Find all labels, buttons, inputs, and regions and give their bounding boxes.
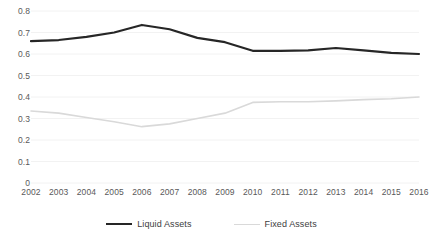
- plot-svg: [31, 11, 419, 183]
- y-tick-label: 0.8: [0, 6, 30, 16]
- y-axis: 00.10.20.30.40.50.60.70.8: [0, 0, 30, 190]
- legend-label: Liquid Assets: [137, 218, 191, 230]
- y-tick-label: 0.6: [0, 49, 30, 59]
- x-tick-label: 2010: [243, 186, 262, 198]
- y-tick-label: 0.1: [0, 157, 30, 167]
- legend-swatch-icon: [234, 224, 260, 225]
- plot-area: [31, 11, 419, 183]
- x-tick-label: 2013: [326, 186, 345, 198]
- x-tick-label: 2016: [409, 186, 428, 198]
- series-line-fixed-assets: [31, 97, 419, 127]
- y-tick-label: 0.7: [0, 28, 30, 38]
- legend-swatch-icon: [106, 223, 132, 225]
- legend-item[interactable]: Liquid Assets: [106, 218, 191, 230]
- x-tick-label: 2014: [354, 186, 373, 198]
- x-tick-label: 2015: [382, 186, 401, 198]
- legend-item[interactable]: Fixed Assets: [234, 218, 317, 230]
- y-tick-label: 0.4: [0, 92, 30, 102]
- y-tick-label: 0.5: [0, 71, 30, 81]
- x-tick-label: 2003: [49, 186, 68, 198]
- x-tick-label: 2006: [132, 186, 151, 198]
- x-tick-label: 2004: [77, 186, 96, 198]
- legend-label: Fixed Assets: [265, 218, 317, 230]
- x-tick-label: 2007: [160, 186, 179, 198]
- x-tick-label: 2002: [21, 186, 40, 198]
- series-line-liquid-assets: [31, 25, 419, 54]
- x-tick-label: 2011: [271, 186, 290, 198]
- x-tick-label: 2009: [215, 186, 234, 198]
- x-axis: 2002200320042005200620072008200920102011…: [0, 186, 423, 202]
- x-tick-label: 2005: [104, 186, 123, 198]
- chart-legend: Liquid AssetsFixed Assets: [0, 214, 423, 234]
- x-tick-label: 2008: [188, 186, 207, 198]
- x-tick-label: 2012: [298, 186, 317, 198]
- y-tick-label: 0.2: [0, 135, 30, 145]
- y-tick-label: 0.3: [0, 114, 30, 124]
